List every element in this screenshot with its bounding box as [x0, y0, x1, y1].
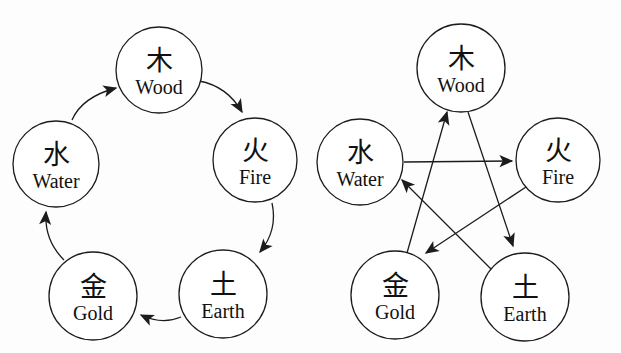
- arrow-earth-to-gold: [141, 315, 181, 321]
- gen-node-fire-en: Fire: [239, 166, 271, 188]
- arrow-fire-to-gold: [426, 187, 526, 253]
- gen-node-gold: 金 Gold: [49, 252, 137, 340]
- arrow-wood-to-fire: [199, 81, 242, 112]
- gen-node-water-zh: 水: [43, 140, 70, 170]
- left-diagram-generating-cycle: 木 Wood 火 Fire 土 Earth 金 Gold 水 Water: [0, 0, 310, 353]
- ovc-node-wood-en: Wood: [437, 74, 484, 96]
- gen-node-earth: 土 Earth: [179, 250, 267, 338]
- gen-node-fire-zh: 火: [242, 136, 269, 166]
- right-diagram-overcoming-cycle: 木 Wood 水 Water 火 Fire 金 Gold 土 Earth: [310, 0, 621, 353]
- gen-node-gold-en: Gold: [73, 302, 113, 324]
- arrow-wood-to-earth: [468, 112, 513, 246]
- gen-node-wood-en: Wood: [135, 76, 182, 98]
- ovc-node-gold-en: Gold: [375, 301, 415, 323]
- five-elements-diagrams: 木 Wood 火 Fire 土 Earth 金 Gold 水 Water: [0, 0, 621, 353]
- ovc-node-fire: 火 Fire: [516, 118, 600, 202]
- ovc-node-earth-en: Earth: [503, 303, 546, 325]
- arrow-water-to-wood: [72, 88, 116, 120]
- arrow-fire-to-earth: [260, 203, 274, 252]
- gen-node-fire: 火 Fire: [213, 118, 297, 202]
- arrow-gold-to-water: [46, 212, 64, 260]
- ovc-node-fire-zh: 火: [545, 136, 572, 166]
- gen-node-water: 水 Water: [13, 121, 99, 207]
- ovc-node-water-zh: 水: [347, 138, 374, 168]
- ovc-node-gold-zh: 金: [382, 271, 409, 301]
- arrow-water-to-fire: [404, 161, 512, 162]
- ovc-node-earth: 土 Earth: [481, 253, 569, 341]
- gen-node-gold-zh: 金: [80, 272, 107, 302]
- gen-node-wood-zh: 木: [146, 46, 173, 76]
- arrow-gold-to-wood: [407, 112, 447, 253]
- gen-node-earth-en: Earth: [201, 300, 244, 322]
- ovc-node-gold: 金 Gold: [351, 251, 439, 339]
- ovc-node-wood: 木 Wood: [417, 24, 505, 112]
- ovc-node-fire-en: Fire: [542, 166, 574, 188]
- ovc-node-earth-zh: 土: [512, 273, 539, 303]
- ovc-node-water: 水 Water: [317, 119, 403, 205]
- ovc-node-wood-zh: 木: [448, 44, 475, 74]
- gen-node-wood: 木 Wood: [116, 27, 202, 113]
- gen-node-earth-zh: 土: [210, 270, 237, 300]
- ovc-node-water-en: Water: [336, 168, 384, 190]
- gen-node-water-en: Water: [32, 170, 80, 192]
